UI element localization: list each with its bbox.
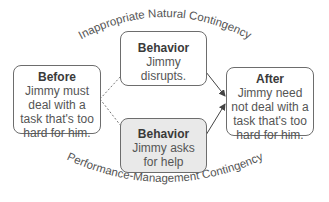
before-text: Jimmy must deal with a task that's too h… xyxy=(14,84,100,140)
before-title: Before xyxy=(14,70,100,84)
behavior-top-text: Jimmy disrupts. xyxy=(121,55,206,83)
behavior-bottom-text: Jimmy asks for help xyxy=(121,141,206,169)
behavior-top-title: Behavior xyxy=(121,41,206,55)
dashed-line-before-to-behavior-top xyxy=(100,76,121,99)
arrow-behavior-bottom-to-after xyxy=(206,104,225,135)
after-title: After xyxy=(227,72,313,86)
arrow-behavior-top-to-after xyxy=(206,72,225,96)
after-text: Jimmy need not deal with a task that's t… xyxy=(227,86,313,142)
dashed-line-before-to-behavior-bottom xyxy=(100,99,121,126)
before-box: Before Jimmy must deal with a task that'… xyxy=(13,65,101,134)
behavior-top-box: Behavior Jimmy disrupts. xyxy=(120,31,207,86)
behavior-bottom-title: Behavior xyxy=(121,127,206,141)
behavior-bottom-box: Behavior Jimmy asks for help xyxy=(120,118,207,173)
after-box: After Jimmy need not deal with a task th… xyxy=(226,67,314,136)
